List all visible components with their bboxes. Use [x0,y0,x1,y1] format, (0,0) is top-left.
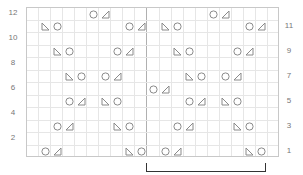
left-triangle-icon [220,96,232,109]
row-label: 4 [5,108,21,118]
circle-icon [135,146,147,159]
circle-icon [63,46,75,59]
left-triangle-icon [99,96,111,109]
right-triangle-icon [75,96,87,109]
grid-line [27,145,278,146]
left-triangle-icon [244,146,256,159]
circle-icon [51,121,63,134]
circle-icon [184,96,196,109]
row-label: 6 [5,83,21,93]
circle-icon [220,71,232,84]
circle-icon [123,21,135,34]
row-label: 9 [281,46,297,56]
left-triangle-icon [39,21,51,34]
row-label: 12 [5,8,21,18]
left-triangle-icon [63,71,75,84]
left-triangle-icon [232,121,244,134]
circle-icon [172,21,184,34]
circle-icon [172,121,184,134]
left-triangle-icon [123,146,135,159]
circle-icon [39,146,51,159]
right-triangle-icon [51,146,63,159]
circle-icon [123,121,135,134]
left-triangle-icon [51,46,63,59]
circle-icon [75,71,87,84]
circle-icon [196,71,208,84]
row-label: 3 [281,121,297,131]
circle-icon [232,46,244,59]
circle-icon [256,146,268,159]
right-triangle-icon [220,8,232,21]
grid-line [27,32,278,33]
right-triangle-icon [196,96,208,109]
knitting-chart-grid [26,7,279,157]
circle-icon [160,146,172,159]
right-triangle-icon [123,46,135,59]
right-triangle-icon [184,121,196,134]
right-triangle-icon [63,121,75,134]
left-triangle-icon [184,71,196,84]
row-label: 8 [5,58,21,68]
left-triangle-icon [111,121,123,134]
grid-line [27,20,278,21]
circle-icon [111,96,123,109]
circle-icon [184,46,196,59]
row-label: 7 [281,71,297,81]
circle-icon [232,96,244,109]
row-label: 10 [5,33,21,43]
circle-icon [244,121,256,134]
row-label: 5 [281,96,297,106]
circle-icon [51,21,63,34]
circle-icon [244,21,256,34]
row-label: 1 [281,146,297,156]
repeat-bracket [146,163,266,172]
right-triangle-icon [160,83,172,96]
circle-icon [147,83,159,96]
row-label: 11 [281,21,297,31]
right-triangle-icon [111,71,123,84]
right-triangle-icon [99,8,111,21]
left-triangle-icon [172,46,184,59]
circle-icon [208,8,220,21]
right-triangle-icon [232,71,244,84]
circle-icon [111,46,123,59]
circle-icon [87,8,99,21]
right-triangle-icon [172,146,184,159]
circle-icon [63,96,75,109]
row-label: 2 [5,133,21,143]
right-triangle-icon [244,46,256,59]
left-triangle-icon [160,21,172,34]
right-triangle-icon [256,21,268,34]
circle-icon [99,71,111,84]
right-triangle-icon [135,21,147,34]
